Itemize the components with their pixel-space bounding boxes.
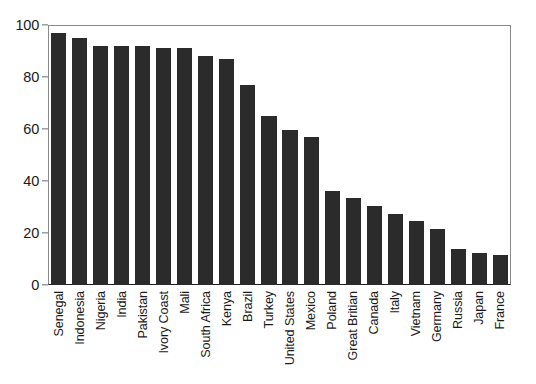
bars-layer xyxy=(48,25,511,285)
x-axis-category-label: Senegal xyxy=(52,291,66,337)
bar xyxy=(282,130,297,285)
bar xyxy=(430,229,445,285)
bar xyxy=(261,116,276,285)
bar xyxy=(472,253,487,286)
bar xyxy=(346,198,361,285)
y-axis-tick-label: 20 xyxy=(23,225,39,241)
x-axis-category-label: India xyxy=(115,291,129,318)
bar xyxy=(240,85,255,285)
x-axis-category-label: France xyxy=(493,291,507,330)
bar xyxy=(93,46,108,285)
bar xyxy=(114,46,129,285)
x-axis-labels: SenegalIndonesiaNigeriaIndiaPakistanIvor… xyxy=(48,285,511,384)
x-axis-category-label: Poland xyxy=(325,291,339,330)
x-axis-category-label: Indonesia xyxy=(73,291,87,345)
y-axis-tick-label: 80 xyxy=(23,69,39,85)
bar xyxy=(156,48,171,285)
x-axis-category-label: Pakistan xyxy=(136,291,150,339)
bar xyxy=(177,48,192,285)
y-axis-tick-label: 40 xyxy=(23,173,39,189)
y-axis-tick-label: 100 xyxy=(15,17,39,33)
bar xyxy=(409,221,424,285)
x-axis-category-label: Great Britian xyxy=(346,291,360,360)
bar xyxy=(72,38,87,285)
x-axis-category-label: Canada xyxy=(367,291,381,335)
x-axis-category-label: Brazil xyxy=(241,291,255,322)
bar xyxy=(304,137,319,285)
bar xyxy=(493,255,508,285)
x-axis-category-label: Japan xyxy=(472,291,486,325)
x-axis-category-label: Vietnam xyxy=(409,291,423,336)
x-axis-category-label: Turkey xyxy=(262,291,276,328)
bar-chart: 020406080100 SenegalIndonesiaNigeriaIndi… xyxy=(0,0,536,384)
bar xyxy=(367,206,382,285)
x-axis-category-label: Nigeria xyxy=(94,291,108,330)
y-axis-tick-label: 0 xyxy=(31,277,39,293)
x-axis-category-label: United States xyxy=(283,291,297,365)
bar xyxy=(219,59,234,285)
bar xyxy=(51,33,66,285)
bar xyxy=(325,191,340,285)
x-axis-category-label: Mexico xyxy=(304,291,318,330)
bar xyxy=(135,46,150,285)
x-axis-category-label: South Africa xyxy=(199,291,213,358)
x-axis-category-label: Russia xyxy=(451,291,465,329)
bar xyxy=(198,56,213,285)
x-axis-category-label: Italy xyxy=(388,291,402,314)
x-axis-category-label: Mali xyxy=(178,291,192,314)
y-axis-tick-label: 60 xyxy=(23,121,39,137)
bar xyxy=(388,214,403,286)
x-axis-category-label: Kenya xyxy=(220,291,234,326)
x-axis-category-label: Germany xyxy=(430,291,444,342)
bar xyxy=(451,249,466,285)
y-axis: 020406080100 xyxy=(0,0,48,384)
x-axis-category-label: Ivory Coast xyxy=(157,291,171,354)
